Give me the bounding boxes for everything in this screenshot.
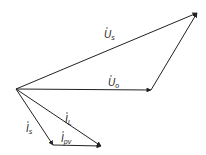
- vector-ipv: [53, 145, 101, 146]
- svg-text:IL: IL: [65, 114, 72, 126]
- label-is: Is: [26, 121, 33, 135]
- vector-is: [16, 89, 53, 145]
- svg-text:Is: Is: [26, 123, 33, 135]
- dot-mark: [106, 27, 107, 28]
- dot-mark: [62, 131, 63, 132]
- label-il: IL: [65, 112, 72, 126]
- dot-mark: [27, 121, 28, 122]
- vector-uo-to-us: [151, 13, 197, 90]
- dot-mark: [66, 112, 67, 113]
- label-us: Us: [104, 27, 115, 41]
- phasor-diagram: Us Uo IL Is Ipv: [0, 0, 206, 155]
- svg-text:Us: Us: [104, 29, 115, 41]
- svg-text:Ipv: Ipv: [61, 133, 72, 146]
- label-uo: Uo: [108, 75, 119, 89]
- label-ipv: Ipv: [61, 131, 72, 146]
- vector-il: [16, 89, 101, 146]
- dot-mark: [110, 75, 111, 76]
- vector-uo: [16, 89, 151, 90]
- svg-text:Uo: Uo: [108, 77, 119, 89]
- vector-us: [16, 13, 197, 89]
